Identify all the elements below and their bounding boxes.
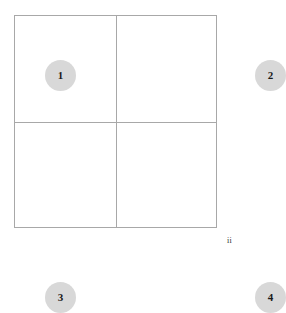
node-circle-3[interactable]: 3 [45, 282, 76, 313]
node-circle-4-label: 4 [268, 292, 274, 303]
node-circle-2-label: 2 [268, 70, 274, 81]
node-circle-1-label: 1 [58, 70, 64, 81]
grid-cell-top-left[interactable]: 1 [15, 16, 116, 122]
node-circle-3-label: 3 [58, 292, 64, 303]
grid-cell-bottom-right[interactable]: ii 4 [117, 123, 216, 227]
grid-container: 1 2 3 ii 4 [14, 15, 217, 228]
cell-annotation-ii: ii [227, 237, 232, 245]
grid-cell-bottom-left[interactable]: 3 [15, 123, 116, 227]
node-circle-4[interactable]: 4 [255, 282, 286, 313]
node-circle-2[interactable]: 2 [255, 60, 286, 91]
grid-cell-top-right[interactable]: 2 [117, 16, 216, 122]
node-circle-1[interactable]: 1 [45, 60, 76, 91]
